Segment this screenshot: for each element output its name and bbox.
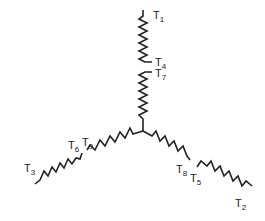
terminal-label-t2: T2 <box>235 198 246 212</box>
terminal-label-t8: T8 <box>176 164 187 178</box>
wye-winding-diagram: T1 T4 T7 T6 T9 T3 T8 T5 T2 <box>0 0 265 221</box>
terminal-sub: 1 <box>160 15 164 24</box>
terminal-sub: 6 <box>75 145 79 154</box>
terminal-label-t3: T3 <box>24 163 35 177</box>
terminal-sub: 3 <box>31 168 35 177</box>
terminal-base: T <box>82 136 89 148</box>
terminal-label-t1: T1 <box>153 10 164 24</box>
coil-t1-t4 <box>139 10 152 62</box>
terminal-label-t5: T5 <box>190 173 201 187</box>
terminal-label-t9: T9 <box>82 137 93 151</box>
terminal-sub: 8 <box>183 169 187 178</box>
terminal-base: T <box>153 9 160 21</box>
coil-center-t9 <box>87 128 143 150</box>
terminal-base: T <box>190 172 197 184</box>
terminal-base: T <box>235 197 242 209</box>
coil-t5-t2 <box>197 161 252 186</box>
terminal-label-t7: T7 <box>155 68 166 82</box>
terminal-sub: 5 <box>197 178 201 187</box>
terminal-base: T <box>176 163 183 175</box>
terminal-label-t6: T6 <box>68 140 79 154</box>
coil-t6-t3 <box>35 153 82 184</box>
terminal-sub: 7 <box>162 73 166 82</box>
coil-center-t8 <box>143 131 190 160</box>
terminal-base: T <box>68 139 75 151</box>
terminal-sub: 9 <box>89 142 93 151</box>
terminal-base: T <box>24 162 31 174</box>
terminal-sub: 2 <box>242 203 246 212</box>
coil-t7-center <box>139 72 152 131</box>
terminal-base: T <box>155 67 162 79</box>
winding-drawing <box>0 0 265 221</box>
